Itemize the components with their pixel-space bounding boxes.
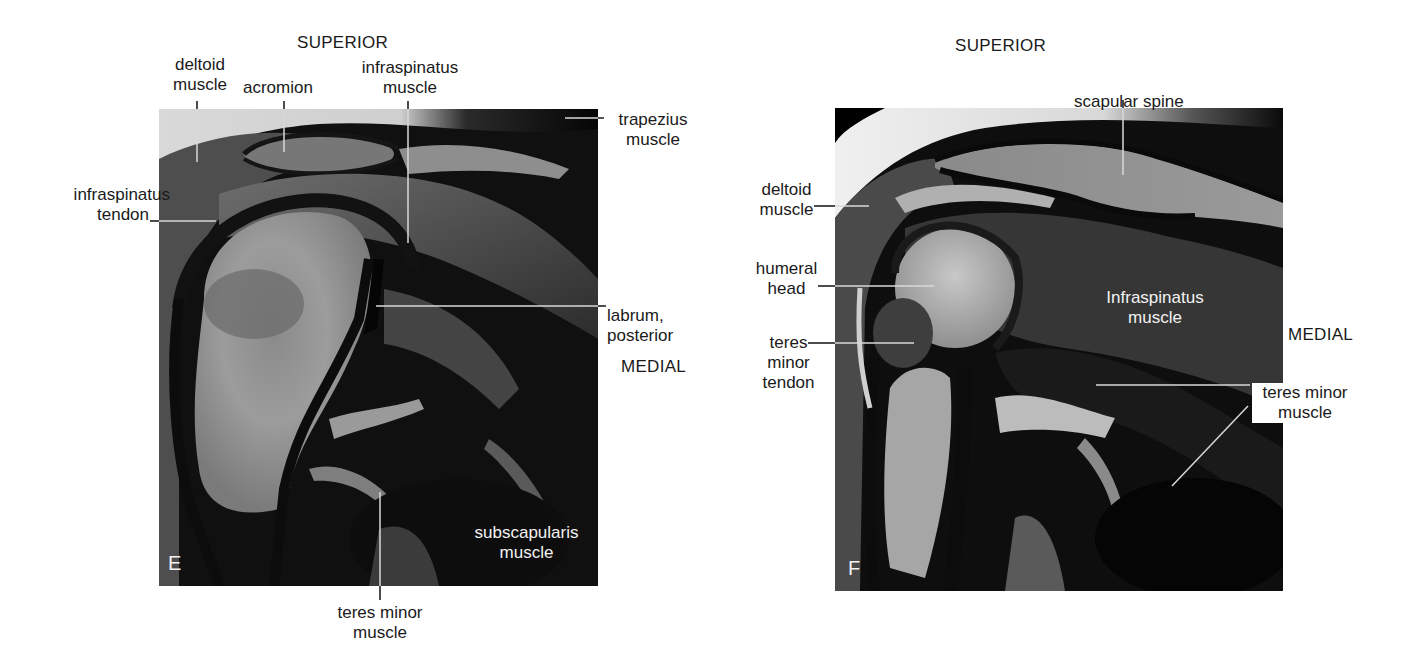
label-trapezius-muscle: trapezius muscle: [603, 110, 703, 150]
orientation-medial-f: MEDIAL: [1288, 325, 1353, 345]
label-teres-minor-tendon: teres minor tendon: [751, 333, 826, 393]
orientation-superior-e: SUPERIOR: [297, 33, 388, 53]
label-infraspinatus-tendon: infraspinatus tendon: [20, 185, 170, 225]
mri-image-f: [835, 108, 1283, 591]
orientation-superior-f: SUPERIOR: [955, 36, 1046, 56]
mri-panel-f: F Infraspinatus muscle: [835, 108, 1283, 591]
orientation-medial-e: MEDIAL: [621, 357, 686, 377]
label-deltoid-muscle-e: deltoid muscle: [160, 55, 240, 95]
label-infraspinatus-muscle-e: infraspinatus muscle: [330, 58, 490, 98]
label-teres-minor-muscle-e: teres minor muscle: [320, 603, 440, 643]
label-subscapularis-muscle: subscapularis muscle: [464, 523, 589, 563]
label-scapular-spine: scapular spine: [1074, 92, 1184, 112]
label-deltoid-muscle-f: deltoid muscle: [749, 180, 824, 220]
panel-letter-e: E: [168, 552, 181, 575]
figure: E subscapularis muscle SUPERIOR MEDIAL d…: [0, 0, 1406, 672]
label-humeral-head: humeral head: [749, 259, 824, 299]
mri-image-e: [159, 109, 598, 586]
label-labrum-posterior: labrum, posterior: [607, 306, 673, 346]
mri-panel-e: E subscapularis muscle: [159, 109, 598, 586]
label-infraspinatus-muscle-f: Infraspinatus muscle: [1090, 288, 1220, 328]
panel-letter-f: F: [848, 557, 860, 580]
label-acromion: acromion: [243, 78, 313, 98]
label-teres-minor-muscle-f: teres minor muscle: [1252, 383, 1358, 423]
